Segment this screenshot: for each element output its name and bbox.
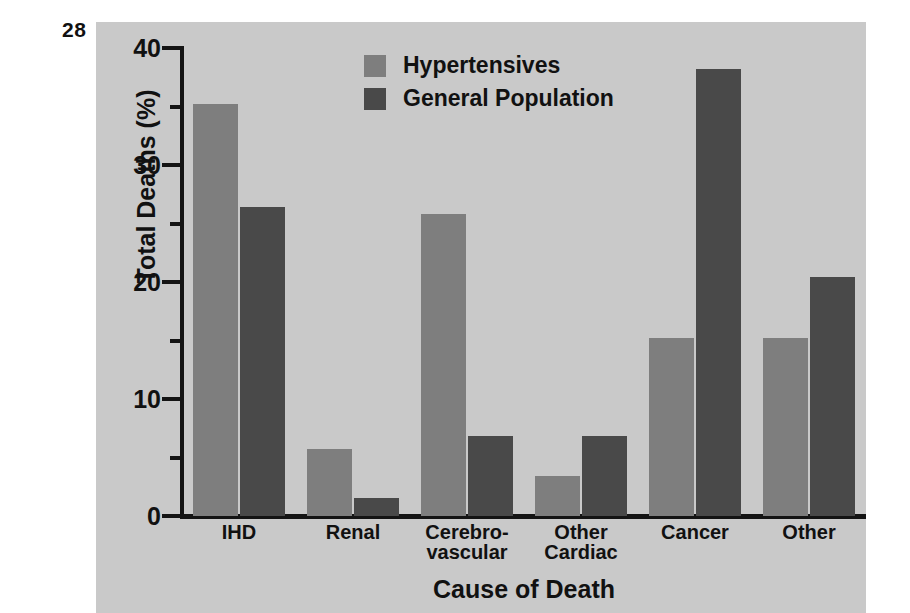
- y-tick-major: [162, 163, 184, 167]
- x-category-label: Other Cardiac: [524, 522, 638, 563]
- y-tick-major: [162, 46, 184, 50]
- plot-area: [182, 48, 866, 516]
- bar: [421, 214, 466, 516]
- bar: [193, 104, 238, 516]
- bar: [696, 69, 741, 516]
- x-category-label: Renal: [296, 522, 410, 542]
- y-tick-label: 20: [101, 268, 161, 297]
- bar: [810, 277, 855, 516]
- bar: [307, 449, 352, 516]
- legend-label-hypertensives: Hypertensives: [403, 52, 560, 79]
- bar: [763, 338, 808, 516]
- figure-panel: Total Deaths (%) 010203040 IHDRenalCereb…: [96, 22, 866, 613]
- y-tick-label: 0: [101, 502, 161, 531]
- bar: [582, 436, 627, 516]
- legend-swatch-hypertensives: [364, 55, 386, 77]
- y-tick-label: 30: [101, 151, 161, 180]
- x-axis-title: Cause of Death: [182, 575, 866, 604]
- x-category-label: Other: [752, 522, 866, 542]
- x-category-label: Cancer: [638, 522, 752, 542]
- chart-legend: Hypertensives General Population: [364, 49, 614, 115]
- y-tick-label: 10: [101, 385, 161, 414]
- y-tick-major: [162, 280, 184, 284]
- y-tick-label: 40: [101, 34, 161, 63]
- bar: [535, 476, 580, 516]
- legend-entry: General Population: [364, 82, 614, 115]
- bar: [649, 338, 694, 516]
- x-category-label: Cerebro- vascular: [410, 522, 524, 563]
- y-tick-major: [162, 514, 184, 518]
- legend-label-general-population: General Population: [403, 85, 614, 112]
- bar: [240, 207, 285, 516]
- legend-entry: Hypertensives: [364, 49, 614, 82]
- page-number: 28: [62, 18, 86, 42]
- legend-swatch-general-population: [364, 88, 386, 110]
- x-category-label: IHD: [182, 522, 296, 542]
- bar: [354, 498, 399, 516]
- bar: [468, 436, 513, 516]
- y-tick-major: [162, 397, 184, 401]
